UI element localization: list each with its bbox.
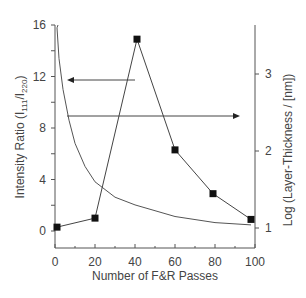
y-ticks-left: 0481216 (33, 18, 55, 238)
arrow-right-icon (233, 113, 240, 119)
y-tick-label: 0 (39, 224, 46, 238)
y2-tick-label: 1 (265, 221, 272, 235)
chart: 0481216 020406080100 123 Number of F&R P… (0, 0, 306, 298)
x-tick-label: 100 (245, 255, 265, 269)
data-point-marker (134, 36, 141, 43)
y-tick-label: 8 (39, 121, 46, 135)
data-point-marker (210, 190, 217, 197)
data-point-marker (92, 215, 99, 222)
thickness-curve (57, 25, 251, 225)
arrow-left-icon (67, 77, 74, 83)
y2-tick-label: 2 (265, 144, 272, 158)
y-tick-label: 12 (33, 70, 47, 84)
x-tick-label: 60 (168, 255, 182, 269)
x-axis-label: Number of F&R Passes (92, 269, 218, 283)
y-tick-label: 4 (39, 173, 46, 187)
chart-svg: 0481216 020406080100 123 Number of F&R P… (0, 0, 306, 298)
data-point-marker (248, 216, 255, 223)
y-axis-label: Intensity Ratio (I111/I220) (13, 76, 29, 199)
y-tick-label: 16 (33, 18, 47, 32)
x-tick-label: 80 (208, 255, 222, 269)
data-point-marker (172, 146, 179, 153)
x-tick-label: 0 (52, 255, 59, 269)
x-tick-label: 20 (88, 255, 102, 269)
data-point-marker (54, 224, 61, 231)
y2-axis-label: Log (Layer-Thickness / [nm]) (281, 74, 295, 227)
x-tick-label: 40 (128, 255, 142, 269)
y-ticks-right: 123 (255, 67, 272, 235)
intensity-ratio-line (57, 39, 251, 227)
y2-tick-label: 3 (265, 67, 272, 81)
